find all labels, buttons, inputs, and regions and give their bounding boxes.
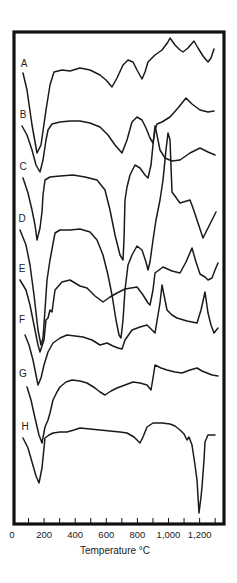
x-tick-label: 0 [9,529,14,540]
series-label-d: D [18,213,25,224]
series-labels-group: ABCDEFGH [18,58,28,432]
x-tick-label: 400 [67,529,83,540]
series-label-a: A [21,58,28,69]
x-axis-ticks [29,518,216,523]
x-tick-label: 600 [98,529,114,540]
curve-g [27,365,218,443]
curve-b [22,98,214,172]
x-axis-tick-labels: 02004006008001,0001,200 [9,529,211,540]
curve-a [23,38,214,153]
x-axis-title: Temperature °C [80,545,150,556]
dta-chart: ABCDEFGH 02004006008001,0001,200 Tempera… [0,0,237,583]
series-label-b: B [20,109,27,120]
curves-group [20,38,218,513]
series-label-g: G [19,368,27,379]
series-label-h: H [21,421,28,432]
x-tick-label: 200 [36,529,52,540]
curve-h [23,423,215,513]
series-label-f: F [19,314,25,325]
curve-c [23,126,215,260]
x-tick-label: 800 [129,529,145,540]
series-label-c: C [19,161,26,172]
series-label-e: E [19,263,26,274]
x-tick-label: 1,000 [157,529,181,540]
x-tick-label: 1,200 [188,529,212,540]
